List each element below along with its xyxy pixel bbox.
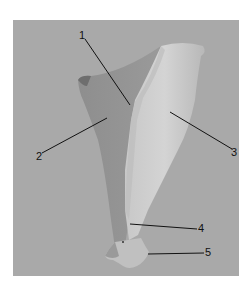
callout-label-2: 2 <box>36 151 42 162</box>
callout-label-3: 3 <box>231 147 237 158</box>
callout-label-1: 1 <box>79 30 85 41</box>
callout-label-5: 5 <box>205 247 211 258</box>
scapula-illustration <box>13 20 239 276</box>
callout-label-4: 4 <box>198 223 204 234</box>
photo-panel: 1 2 3 4 5 <box>13 20 239 276</box>
